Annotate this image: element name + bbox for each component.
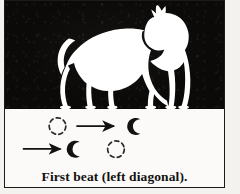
hoofprint-hind-left-grounded [67,141,80,158]
hoofprint-hind-right-lifted [108,141,125,158]
hoofprint-front-right-grounded [127,118,140,135]
horse-silhouette-shape [58,5,191,109]
hoofprint-front-left-lifted [49,118,66,135]
figure-frame: First beat (left diagonal). [4,0,225,188]
figure-caption: First beat (left diagonal). [5,169,224,185]
figure-page: First beat (left diagonal). [0,0,240,194]
diagram-panel: First beat (left diagonal). [5,109,224,187]
footfall-diagram [5,109,224,167]
horse-silhouette-image [5,1,224,109]
photo-panel [5,1,224,109]
